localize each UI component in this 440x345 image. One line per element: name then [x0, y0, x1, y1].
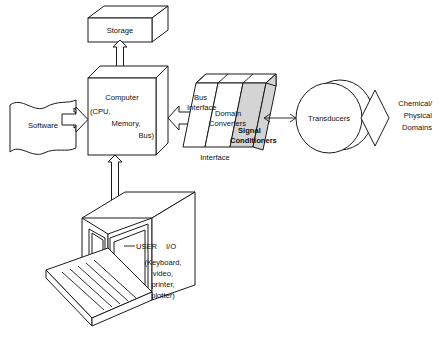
- computer-label: Computer: [105, 93, 139, 102]
- slab1-label-line1: Bus: [194, 93, 207, 102]
- interface-top-face-1: [196, 74, 276, 83]
- user-label: USER: [136, 242, 158, 251]
- domains-label-line1: Chemical/: [398, 99, 433, 108]
- workstation-detail-3: printer,: [151, 280, 174, 289]
- workstation-detail-1: (Keyboard,: [144, 258, 181, 267]
- slab3-label-line2: Conditioners: [230, 136, 277, 145]
- slab1-label-line2: Interface: [187, 103, 217, 112]
- computer-node[interactable]: Computer (CPU, Memory, Bus): [88, 66, 168, 155]
- software-label: Software: [28, 121, 58, 130]
- transducers-label: Transducers: [308, 114, 350, 123]
- interface-caption: Interface: [200, 153, 230, 162]
- storage-label: Storage: [107, 26, 134, 35]
- computer-detail-bus: Bus): [138, 131, 154, 140]
- workstation-detail-2: video,: [153, 269, 173, 278]
- system-block-diagram: Storage Software Computer (CPU, Memory, …: [0, 0, 440, 345]
- workstation-detail-4: plotter): [151, 291, 175, 300]
- slab3-label-line1: Signal: [238, 126, 261, 135]
- software-node[interactable]: Software: [10, 100, 76, 154]
- domains-label-line3: Domains: [402, 123, 432, 132]
- slab2-label-line1: Domain: [215, 109, 241, 118]
- computer-detail-cpu: (CPU,: [90, 107, 111, 116]
- computer-top-face: [88, 66, 168, 78]
- computer-side-face: [156, 66, 168, 155]
- io-label: I/O: [166, 242, 176, 251]
- domains-label-line2: Physical: [404, 111, 433, 120]
- computer-front-face: [88, 78, 156, 155]
- computer-detail-memory: Memory,: [112, 119, 141, 128]
- storage-node[interactable]: Storage: [88, 6, 168, 42]
